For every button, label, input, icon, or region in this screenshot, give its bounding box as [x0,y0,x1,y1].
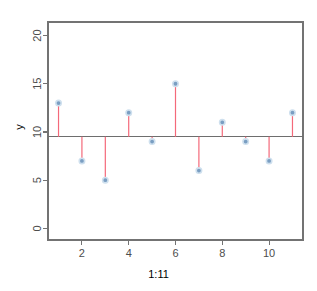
data-point [149,139,154,144]
data-point [103,177,108,182]
y-axis-title: y [13,124,25,130]
y-tick-label-15: 15 [31,78,43,90]
y-tick-label-0: 0 [31,225,43,231]
data-point [79,158,84,163]
data-point [220,120,225,125]
data-point [243,139,248,144]
data-point [173,81,178,86]
x-tick-label-2: 2 [79,247,85,259]
y-tick-label-10: 10 [31,126,43,138]
data-point [290,110,295,115]
data-point [196,168,201,173]
x-tick-label-4: 4 [126,247,132,259]
data-series-y [56,81,295,183]
y-tick-label-5: 5 [31,177,43,183]
y-tick-label-20: 20 [31,29,43,41]
x-tick-label-6: 6 [172,247,178,259]
x-tick-label-8: 8 [219,247,225,259]
data-point [126,110,131,115]
x-tick-label-10: 10 [263,247,275,259]
stem-plot-figure: 05101520246810 [0,0,317,291]
data-point [56,100,61,105]
chart-canvas: 05101520246810 y 1:11 [0,0,317,291]
data-point [266,158,271,163]
x-axis-title: 1:11 [0,268,317,280]
